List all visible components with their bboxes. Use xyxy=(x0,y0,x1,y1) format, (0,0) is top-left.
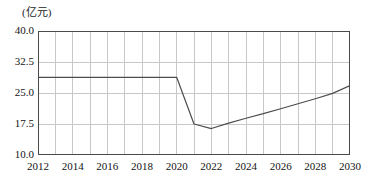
x-axis-tick-label: 2030 xyxy=(339,160,361,172)
x-axis-tick-label: 2012 xyxy=(27,160,49,172)
plot-area xyxy=(38,31,350,155)
x-axis-tick-label: 2014 xyxy=(62,160,84,172)
x-axis-tick-label: 2026 xyxy=(270,160,292,172)
x-axis-tick-label: 2018 xyxy=(131,160,153,172)
line-chart: (亿元) 40.032.525.017.510.0 20122014201620… xyxy=(0,0,371,184)
x-axis-tick-label: 2022 xyxy=(200,160,222,172)
plot-frame-border xyxy=(38,31,350,155)
plot-border xyxy=(39,32,350,155)
x-axis-tick-label: 2016 xyxy=(96,160,118,172)
x-axis-tick-label: 2024 xyxy=(235,160,257,172)
x-axis-tick-label: 2028 xyxy=(304,160,326,172)
x-axis-tick-label: 2020 xyxy=(166,160,188,172)
